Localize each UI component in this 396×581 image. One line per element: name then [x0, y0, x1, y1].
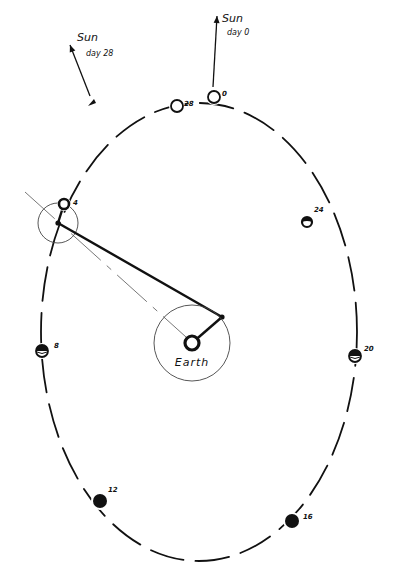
- lunar-orbit-diagram: Earth Sunday 0Sunday 28 0284248201216: [0, 0, 396, 581]
- moon-orbit-ellipse: [41, 99, 357, 561]
- construction-lines: [25, 192, 225, 343]
- arrowhead-icon: [70, 45, 76, 53]
- moon-day-label: 16: [303, 513, 313, 521]
- day-label: day 0: [227, 28, 249, 37]
- moon-icon: [59, 199, 69, 209]
- moon-day-label: 12: [108, 486, 118, 494]
- moon-day-16: 16: [283, 512, 313, 530]
- earth-moon-parallel-line: [58, 223, 222, 317]
- sun-day-28-arrow: Sunday 28: [70, 31, 114, 96]
- earth-label: Earth: [175, 356, 210, 369]
- moon-day-label: 8: [54, 342, 59, 350]
- moon-day-label: 20: [364, 345, 374, 353]
- moon-day-8: 8: [34, 342, 59, 359]
- sun-day-0-arrow: Sunday 0: [213, 12, 249, 87]
- arrowhead-icon: [214, 16, 220, 23]
- moon-day-label: 28: [184, 100, 194, 108]
- moon-day-12: 12: [91, 486, 118, 510]
- moon-day-0: 0: [206, 89, 227, 105]
- earth: Earth: [154, 305, 230, 381]
- diagram-canvas: Earth Sunday 0Sunday 28 0284248201216: [0, 0, 396, 581]
- moon-day-label: 4: [73, 199, 78, 207]
- moon-phases: 0284248201216: [34, 89, 374, 530]
- moon-day-4: 4: [57, 197, 78, 211]
- moon-day-24: 24: [300, 206, 324, 229]
- day-label: day 28: [86, 49, 113, 58]
- moon-icon: [285, 514, 299, 528]
- orbit-path: [41, 103, 357, 561]
- moon-day-label: 0: [222, 90, 227, 98]
- pivot-dot: [55, 220, 60, 225]
- moon-icon: [208, 91, 220, 103]
- earth-icon: [185, 336, 199, 350]
- sun-direction-arrows: Sunday 0Sunday 28: [70, 12, 250, 96]
- sun-label: Sun: [77, 31, 98, 44]
- sight-line: [25, 192, 186, 337]
- moon-icon: [93, 494, 107, 508]
- moon-day-28: 28: [169, 98, 194, 114]
- moon-day-label: 24: [314, 206, 324, 214]
- moon-day-20: 20: [347, 345, 374, 364]
- orbit-direction-arrowhead-icon: [88, 99, 96, 106]
- sun-label: Sun: [222, 12, 243, 25]
- moon-icon: [171, 100, 183, 112]
